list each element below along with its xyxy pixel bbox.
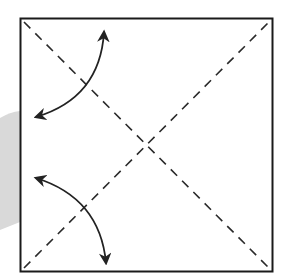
fold-diagram (0, 0, 286, 277)
paper-shadow (0, 111, 20, 230)
